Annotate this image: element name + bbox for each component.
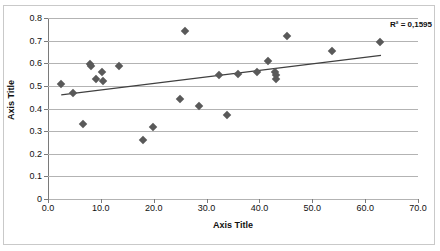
y-axis-tick <box>44 18 48 19</box>
y-axis-tick-label: 0.1 <box>2 171 42 181</box>
y-axis-tick <box>44 86 48 87</box>
y-axis-tick <box>44 109 48 110</box>
x-axis-tick-label: 40.0 <box>239 203 279 213</box>
x-axis-tick-label: 50.0 <box>292 203 332 213</box>
scatter-chart: 00.10.20.30.40.50.60.70.8 Axis Title Axi… <box>0 0 440 251</box>
y-axis-tick <box>44 154 48 155</box>
y-axis-tick <box>44 131 48 132</box>
x-axis-title: Axis Title <box>48 220 418 230</box>
y-axis-tick <box>44 41 48 42</box>
x-axis-tick-label: 60.0 <box>345 203 385 213</box>
y-axis-tick-label: 0.8 <box>2 13 42 23</box>
plot-area <box>48 18 418 199</box>
x-axis-tick-label: 0.0 <box>28 203 68 213</box>
x-axis-tick-label: 10.0 <box>81 203 121 213</box>
y-axis-title: Axis Title <box>6 45 16 155</box>
trendline <box>48 18 418 199</box>
gridline-y <box>48 199 418 200</box>
x-axis-tick-label: 70.0 <box>398 203 438 213</box>
y-axis-tick <box>44 63 48 64</box>
r-squared-annotation: R² = 0,1595 <box>390 20 432 29</box>
y-axis-tick <box>44 176 48 177</box>
x-axis-tick-label: 20.0 <box>134 203 174 213</box>
x-axis-tick-label: 30.0 <box>187 203 227 213</box>
